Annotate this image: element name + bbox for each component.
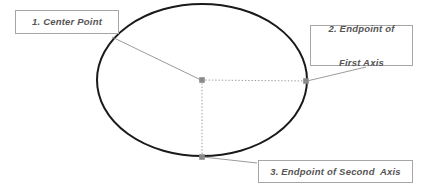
callout-first-axis-line2: First Axis: [328, 57, 394, 69]
center-point-marker: [199, 77, 205, 83]
callout-center-point-label: 1. Center Point: [32, 16, 102, 28]
callout-first-axis-line1: 2. Endpoint of: [328, 23, 394, 35]
callout-second-axis: 3. Endpoint of Second Axis: [258, 160, 413, 183]
first-axis-endpoint-marker: [303, 78, 309, 84]
callout-first-axis: 2. Endpoint of First Axis: [310, 25, 413, 66]
second-axis-endpoint-marker: [199, 154, 205, 160]
ellipse-diagram: 1. Center Point 2. Endpoint of First Axi…: [0, 0, 434, 189]
callout-second-axis-label: 3. Endpoint of Second Axis: [270, 166, 401, 178]
leader-line-second-axis: [203, 157, 257, 163]
first-axis-guide-line: [202, 80, 306, 81]
leader-line-center-point: [112, 37, 201, 80]
callout-first-axis-text: 2. Endpoint of First Axis: [328, 0, 394, 92]
callout-center-point: 1. Center Point: [15, 10, 119, 34]
